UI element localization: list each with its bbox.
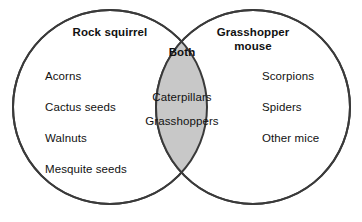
right-set-title: Grasshopper mouse xyxy=(217,26,290,53)
right-set-title-line1: Grasshopper xyxy=(217,26,290,38)
right-set-item: Spiders xyxy=(262,101,319,115)
venn-text-layer: Rock squirrel Acorns Cactus seeds Walnut… xyxy=(0,0,362,222)
left-set-item: Cactus seeds xyxy=(45,101,127,115)
left-set-title: Rock squirrel xyxy=(73,26,148,40)
right-set-title-line2: mouse xyxy=(234,40,272,52)
intersection-item-list: Caterpillars Grasshoppers xyxy=(182,91,255,138)
venn-diagram: Rock squirrel Acorns Cactus seeds Walnut… xyxy=(0,0,362,222)
left-set-item: Walnuts xyxy=(45,132,127,146)
right-set-item-list: Scorpions Spiders Other mice xyxy=(262,70,319,163)
intersection-item: Grasshoppers xyxy=(145,115,218,129)
intersection-title: Both xyxy=(169,46,196,60)
left-set-item-list: Acorns Cactus seeds Walnuts Mesquite see… xyxy=(45,70,127,194)
left-set-item: Acorns xyxy=(45,70,127,84)
left-set-item: Mesquite seeds xyxy=(45,163,127,177)
right-set-item: Other mice xyxy=(262,132,319,146)
right-set-item: Scorpions xyxy=(262,70,319,84)
intersection-item: Caterpillars xyxy=(145,91,218,105)
